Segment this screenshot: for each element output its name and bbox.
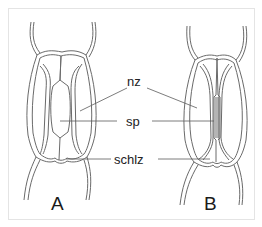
panel-a-drawing [24,22,96,200]
panel-label-b: B [204,193,217,214]
stomata-diagram: nz sp schlz A B [0,0,262,227]
panel-label-a: A [51,193,64,214]
label-schlz: schlz [114,152,144,167]
leader-nz-a [80,88,127,111]
label-nz: nz [127,74,141,89]
label-sp: sp [126,114,140,129]
leader-nz-b [147,88,197,108]
panel-b-drawing [180,26,247,205]
